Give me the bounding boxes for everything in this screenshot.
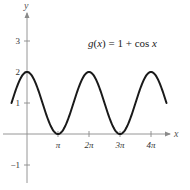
y-tick-label: 1 xyxy=(16,98,21,108)
x-tick-label: 3π xyxy=(114,140,125,150)
chart-canvas: x y π2π3π4π −1123 g(x) = 1 + cos x xyxy=(0,0,190,190)
x-tick-label: π xyxy=(56,140,61,150)
y-tick-label: 3 xyxy=(16,36,21,46)
y-tick-label: −1 xyxy=(10,160,20,170)
x-axis-label: x xyxy=(173,128,179,139)
function-curve xyxy=(12,72,167,134)
function-annotation: g(x) = 1 + cos x xyxy=(88,37,157,50)
x-tick-label: 4π xyxy=(146,140,156,150)
y-tick-label: 2 xyxy=(16,67,21,77)
x-tick-label: 2π xyxy=(84,140,94,150)
y-axis-label: y xyxy=(23,0,29,11)
